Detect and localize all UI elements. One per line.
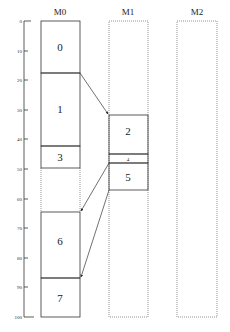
block-label: 5 (125, 171, 131, 183)
tick-label: 20 (17, 78, 23, 83)
migration-arrows (80, 73, 109, 277)
y-axis: 0 10 20 30 40 50 60 70 80 90 100 (15, 19, 35, 320)
column-title-m0: M0 (54, 7, 67, 17)
axis-tick-labels: 0 10 20 30 40 50 60 70 80 90 100 (15, 19, 23, 320)
column-title-m2: M2 (191, 7, 204, 17)
block-label: 2 (125, 125, 131, 137)
tick-label: 100 (15, 315, 23, 320)
tick-label: 50 (17, 167, 23, 172)
column-m2 (177, 21, 217, 317)
column-m1: 2 4 5 (109, 21, 148, 317)
arrow-m1-to-m0 (81, 190, 109, 277)
tick-label: 30 (17, 108, 23, 113)
block-label: 1 (57, 103, 63, 115)
tick-label: 60 (17, 197, 23, 202)
block-label: 0 (57, 41, 63, 53)
tick-label: 10 (17, 49, 23, 54)
tick-label: 90 (17, 285, 23, 290)
column-title-m1: M1 (122, 7, 135, 17)
tick-label: 80 (17, 256, 23, 261)
memory-layout-diagram: 0 10 20 30 40 50 60 70 80 90 100 M0 M1 M… (0, 0, 230, 332)
axis-ticks (24, 21, 34, 317)
arrow-m0-to-m1 (80, 73, 108, 114)
block-label: 6 (57, 235, 63, 247)
tick-label: 70 (17, 226, 23, 231)
block-label: 7 (57, 292, 63, 304)
tick-label: 40 (17, 137, 23, 142)
tick-label: 0 (20, 19, 23, 24)
column-m0: 0 1 3 6 7 (41, 21, 80, 317)
block-label: 4 (127, 157, 130, 162)
block-label: 3 (57, 151, 63, 163)
